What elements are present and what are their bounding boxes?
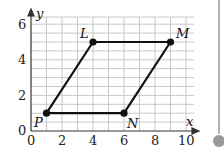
label-P: P — [33, 115, 43, 130]
x-tick-0: 0 — [27, 133, 35, 148]
coordinate-plane: 0 2 4 6 8 10 0 2 4 6 x y P L M N — [0, 0, 224, 149]
axes — [28, 9, 199, 134]
x-tick-2: 2 — [58, 133, 66, 148]
point-P — [43, 110, 50, 117]
y-tick-2: 2 — [18, 88, 26, 103]
x-tick-8: 8 — [151, 133, 159, 148]
y-axis-arrow-icon — [28, 9, 34, 16]
y-axis-label: y — [35, 6, 44, 21]
x-tick-4: 4 — [89, 133, 97, 148]
point-M — [167, 38, 174, 45]
y-tick-4: 4 — [18, 52, 26, 67]
x-axis-label: x — [186, 114, 194, 129]
point-L — [89, 38, 96, 45]
label-N: N — [126, 116, 139, 131]
y-tick-6: 6 — [18, 17, 26, 32]
scroll-handle[interactable] — [213, 135, 224, 147]
y-tick-0: 0 — [18, 123, 26, 138]
x-tick-6: 6 — [120, 133, 128, 148]
x-tick-10: 10 — [178, 133, 195, 148]
label-M: M — [175, 26, 190, 41]
label-L: L — [79, 26, 89, 41]
